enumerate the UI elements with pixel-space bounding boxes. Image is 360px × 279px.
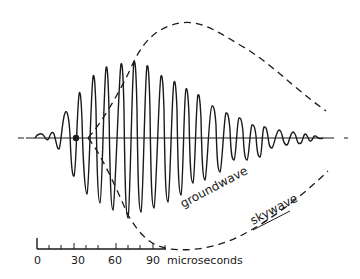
groundwave-label: groundwave — [178, 163, 250, 210]
groundwave-skywave-diagram: groundwave skywave 0 30 60 90 microsecon… — [0, 0, 360, 279]
skywave-label: skywave — [248, 191, 300, 228]
skywave-start-marker — [73, 135, 79, 141]
tick-label-30: 30 — [71, 254, 85, 267]
tick-label-60: 60 — [108, 254, 122, 267]
time-axis — [37, 238, 166, 249]
tick-label-90: 90 — [146, 254, 160, 267]
axis-unit-label: microseconds — [167, 254, 243, 267]
tick-label-0: 0 — [34, 254, 41, 267]
